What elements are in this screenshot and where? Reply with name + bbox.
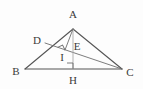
vertex-label-H: H bbox=[69, 75, 77, 86]
vertex-label-C: C bbox=[126, 67, 133, 78]
geometry-figure: A B C D E I H bbox=[0, 0, 143, 89]
vertex-label-D: D bbox=[33, 35, 41, 46]
segment-DC bbox=[45, 43, 122, 69]
vertex-label-I: I bbox=[60, 52, 64, 63]
vertex-label-B: B bbox=[12, 66, 19, 77]
right-angle-at-H bbox=[67, 63, 73, 69]
vertex-label-A: A bbox=[69, 9, 77, 20]
vertex-label-E: E bbox=[74, 41, 81, 52]
